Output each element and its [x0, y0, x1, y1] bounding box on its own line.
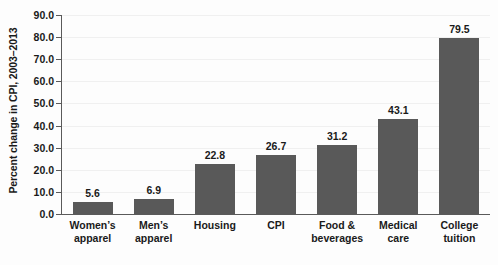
x-axis-label: Men’sapparel: [123, 219, 184, 244]
x-axis-label-line: care: [368, 232, 429, 245]
bar-slot: 5.6: [73, 15, 113, 214]
y-tick-label: 20.0: [4, 164, 54, 176]
y-tick-label: 50.0: [4, 97, 54, 109]
x-axis-label: Food &beverages: [307, 219, 368, 244]
y-tick-label: 80.0: [4, 31, 54, 43]
x-axis-label-line: apparel: [123, 232, 184, 245]
bar-value-label: 79.5: [449, 23, 469, 35]
x-axis-label-line: Food &: [307, 219, 368, 232]
bar-value-label: 22.8: [205, 149, 225, 161]
y-tick-label: 60.0: [4, 75, 54, 87]
y-tick-label: 70.0: [4, 53, 54, 65]
bar: [378, 119, 418, 214]
x-axis-label: Women’sapparel: [62, 219, 123, 244]
y-tick-label: 40.0: [4, 120, 54, 132]
bar: [256, 155, 296, 214]
bar-value-label: 6.9: [146, 184, 161, 196]
y-tick-label: 0.0: [4, 208, 54, 220]
bar-slot: 22.8: [195, 15, 235, 214]
plot-area: 5.66.922.826.731.243.179.5: [62, 15, 490, 214]
x-axis-line: [61, 214, 490, 215]
bar-value-label: 26.7: [266, 140, 286, 152]
bar-chart: Percent change in CPI, 2003–2013 0.010.0…: [0, 0, 498, 265]
x-axis-label-line: Men’s: [123, 219, 184, 232]
bar-slot: 31.2: [317, 15, 357, 214]
bar-value-label: 5.6: [85, 187, 100, 199]
y-tick-label: 10.0: [4, 186, 54, 198]
x-axis-label-line: CPI: [245, 219, 306, 232]
x-axis-label-line: beverages: [307, 232, 368, 245]
bar: [195, 164, 235, 214]
bar-slot: 26.7: [256, 15, 296, 214]
x-axis-label-line: apparel: [62, 232, 123, 245]
y-tick-label: 90.0: [4, 9, 54, 21]
x-axis-label-line: College: [429, 219, 490, 232]
bar-value-label: 31.2: [327, 130, 347, 142]
y-tick-label: 30.0: [4, 142, 54, 154]
x-axis-label: Housing: [184, 219, 245, 232]
x-axis-label: Medicalcare: [368, 219, 429, 244]
x-axis-label: Collegetuition: [429, 219, 490, 244]
x-axis-label-line: Medical: [368, 219, 429, 232]
x-axis-label-line: Housing: [184, 219, 245, 232]
bar: [134, 199, 174, 214]
bar: [439, 38, 479, 214]
bar: [73, 202, 113, 214]
x-axis-label: CPI: [245, 219, 306, 232]
bar-slot: 79.5: [439, 15, 479, 214]
bar: [317, 145, 357, 214]
bar-value-label: 43.1: [388, 104, 408, 116]
bar-slot: 43.1: [378, 15, 418, 214]
x-axis-label-line: Women’s: [62, 219, 123, 232]
x-axis-label-line: tuition: [429, 232, 490, 245]
bar-slot: 6.9: [134, 15, 174, 214]
